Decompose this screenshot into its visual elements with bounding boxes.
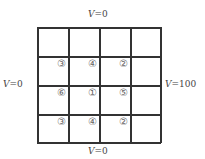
grid-line	[68, 27, 70, 143]
value: =0	[95, 146, 108, 156]
grid-line	[99, 27, 101, 143]
node-label: ⑥	[55, 87, 67, 99]
bottom-boundary-label: V=0	[88, 146, 108, 156]
node-label: ⑤	[117, 87, 129, 99]
grid-line	[160, 27, 162, 143]
value: =0	[10, 79, 23, 89]
node-label: ④	[86, 58, 98, 70]
node-label: ①	[86, 87, 98, 99]
value: =0	[95, 9, 108, 19]
grid: ③ ④ ② ⑥ ① ⑤ ③ ④ ②	[37, 27, 161, 143]
top-boundary-label: V=0	[88, 9, 108, 19]
value: =100	[172, 79, 197, 89]
grid-line	[130, 27, 132, 143]
node-label: ②	[117, 116, 129, 128]
node-label: ③	[55, 58, 67, 70]
grid-line	[37, 27, 39, 143]
node-label: ④	[86, 116, 98, 128]
node-label: ③	[55, 116, 67, 128]
right-boundary-label: V=100	[165, 79, 196, 89]
node-label: ②	[117, 58, 129, 70]
left-boundary-label: V=0	[3, 79, 23, 89]
